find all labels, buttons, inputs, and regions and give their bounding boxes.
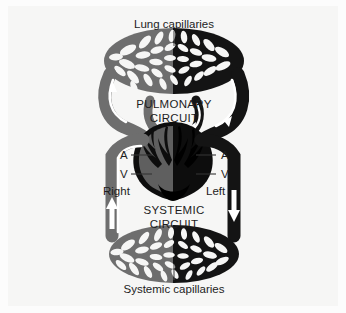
systemic-circuit-label-line2: CIRCUIT: [150, 219, 199, 231]
figure-container: Lung capillaries PULMONARY CIRCUIT A V R…: [0, 0, 346, 313]
pulmonary-circuit-label-line1: PULMONARY: [136, 99, 211, 111]
left-side-label: Left: [206, 186, 225, 198]
circulation-diagram: [0, 0, 346, 313]
left-atrium-label: A: [221, 150, 229, 162]
systemic-circuit-label-line1: SYSTEMIC: [143, 205, 204, 217]
left-ventricle-label: V: [221, 169, 229, 181]
right-side-label: Right: [103, 186, 130, 198]
right-ventricle-label: V: [120, 169, 128, 181]
pulmonary-circuit-label-line2: CIRCUIT: [150, 113, 199, 125]
lung-capillaries-label: Lung capillaries: [134, 19, 214, 31]
systemic-capillaries-label: Systemic capillaries: [124, 284, 225, 296]
right-atrium-label: A: [120, 150, 128, 162]
